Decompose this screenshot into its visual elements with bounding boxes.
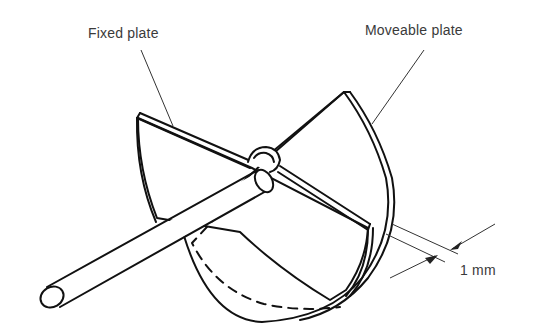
capacitor-diagram: Fixed plate Moveable plate 1 mm	[0, 0, 537, 336]
diagram-drawing	[0, 0, 537, 336]
fixed-plate-label: Fixed plate	[88, 25, 159, 41]
moveable-plate-leader-line	[372, 50, 424, 124]
moveable-plate-label: Moveable plate	[365, 22, 463, 38]
gap-dimension-label: 1 mm	[460, 262, 496, 278]
